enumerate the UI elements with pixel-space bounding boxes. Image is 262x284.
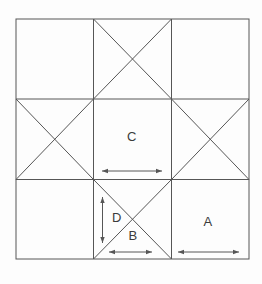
dimension-arrow-C-arrowhead <box>156 169 162 173</box>
dimension-arrow-A-arrowhead <box>178 250 184 254</box>
dimension-arrow-B-arrowhead <box>146 250 152 254</box>
label-B: B <box>128 228 137 243</box>
dimension-arrow-C-arrowhead <box>102 169 108 173</box>
dimension-arrow-B-arrowhead <box>109 250 115 254</box>
diagram-canvas: CDBA <box>0 0 262 284</box>
label-A: A <box>203 214 212 229</box>
dimension-arrow-D-arrowhead <box>100 197 104 203</box>
label-D: D <box>112 210 122 225</box>
quilt-block-diagram: CDBA <box>0 0 262 284</box>
label-C: C <box>127 129 137 144</box>
dimension-arrow-D-arrowhead <box>100 237 104 243</box>
dimension-arrow-A-arrowhead <box>233 250 239 254</box>
